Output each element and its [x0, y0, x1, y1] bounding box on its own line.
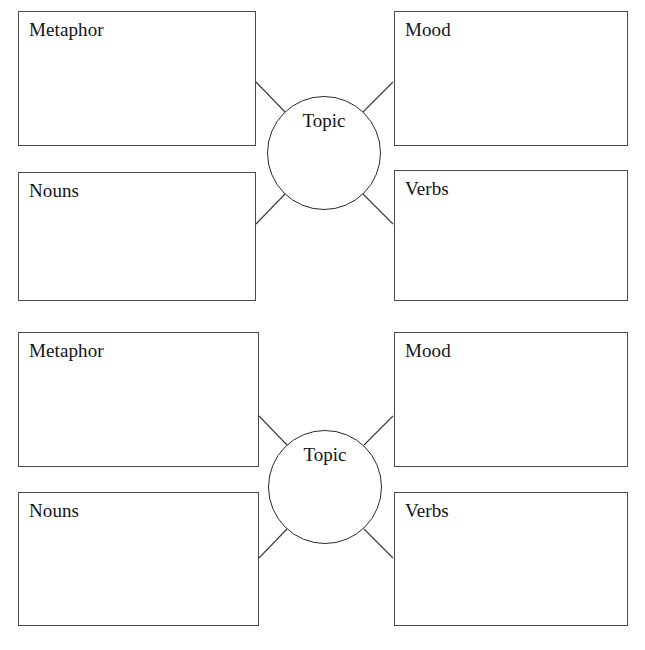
category-box-metaphor[interactable]: Metaphor — [18, 11, 256, 146]
connector-line-nouns — [259, 529, 287, 558]
category-label-metaphor: Metaphor — [29, 338, 104, 363]
connector-line-verbs — [364, 529, 393, 558]
connector-line-verbs — [363, 194, 393, 224]
category-box-nouns[interactable]: Nouns — [18, 492, 259, 626]
connector-line-metaphor — [256, 82, 285, 112]
category-label-verbs: Verbs — [405, 176, 449, 201]
connector-line-nouns — [256, 194, 285, 224]
connector-line-mood — [364, 416, 393, 445]
connector-line-metaphor — [259, 416, 287, 445]
category-label-metaphor: Metaphor — [29, 17, 104, 42]
category-label-nouns: Nouns — [29, 498, 79, 523]
category-box-verbs[interactable]: Verbs — [394, 170, 628, 301]
connector-line-mood — [363, 82, 393, 112]
topic-circle[interactable]: Topic — [268, 430, 382, 544]
topic-label: Topic — [268, 109, 380, 133]
graphic-organizer-1: Metaphor Nouns Mood Verbs Topic — [0, 0, 645, 315]
topic-circle[interactable]: Topic — [267, 96, 381, 210]
category-box-metaphor[interactable]: Metaphor — [18, 332, 259, 467]
category-label-verbs: Verbs — [405, 498, 449, 523]
graphic-organizer-2: Metaphor Nouns Mood Verbs Topic — [0, 321, 645, 650]
category-box-nouns[interactable]: Nouns — [18, 172, 256, 301]
category-label-nouns: Nouns — [29, 178, 79, 203]
worksheet-page: Metaphor Nouns Mood Verbs Topic Metaphor… — [0, 0, 645, 650]
category-label-mood: Mood — [405, 338, 451, 363]
category-label-mood: Mood — [405, 17, 451, 42]
category-box-mood[interactable]: Mood — [394, 11, 628, 146]
topic-label: Topic — [269, 443, 381, 467]
category-box-mood[interactable]: Mood — [394, 332, 628, 467]
category-box-verbs[interactable]: Verbs — [394, 492, 628, 626]
